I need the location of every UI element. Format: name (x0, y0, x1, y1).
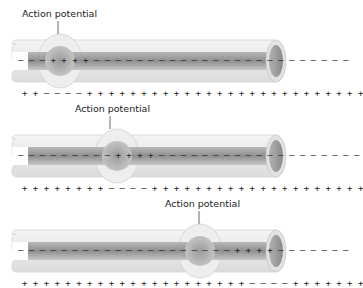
action-potential-label-3: Action potential (165, 198, 240, 209)
panel-3: Action potential – – – – – – – – – – – –… (0, 190, 295, 285)
action-potential-label-2: Action potential (75, 103, 150, 114)
inner-charges-1: – – – + + + + – – – – – – – – – – – – – … (18, 55, 349, 65)
axon-tube-3 (0, 190, 295, 285)
inner-charges-3: – – – – – – – – – – – – – – – – – – – – … (18, 245, 349, 255)
outer-charges-3: + + + + + + + + + + + + + + + + + + + + … (22, 278, 363, 288)
inner-charges-2: – – – – – – – – – + + + + – – – – – – – … (18, 150, 359, 160)
panel-2: Action potential – – – – – – – – – + + +… (0, 95, 295, 190)
action-potential-label-1: Action potential (22, 8, 97, 19)
panel-1: Action potential – – – + + + + – – – – –… (0, 0, 295, 95)
